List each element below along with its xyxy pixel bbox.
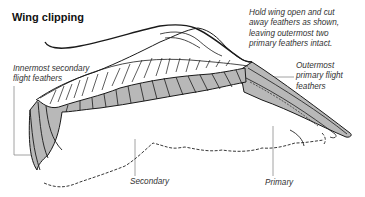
label-primary: Primary (265, 178, 293, 188)
label-innermost-secondary: Innermost secondary flight feathers (13, 64, 123, 85)
label-outermost-primary: Outermost primary flight feathers (296, 61, 364, 92)
wing-clipping-diagram: Wing clipping Hold wing open and cut awa… (0, 0, 365, 197)
diagram-title: Wing clipping (12, 11, 84, 23)
label-secondary: Secondary (130, 177, 169, 187)
instruction-text: Hold wing open and cut away feathers as … (249, 8, 365, 49)
